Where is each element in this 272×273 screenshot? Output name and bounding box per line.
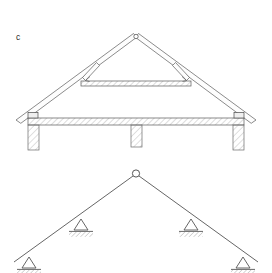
support-inner-left <box>69 219 93 237</box>
right-rafter <box>135 34 256 124</box>
right-wall-plate <box>234 113 244 119</box>
left-frame-member <box>14 176 133 262</box>
right-frame-member <box>139 176 258 262</box>
apex-hinge-icon <box>132 170 139 177</box>
collar-beam <box>81 81 191 86</box>
support-outer-right <box>231 257 255 273</box>
structural-figure: c <box>0 0 272 273</box>
support-inner-right <box>179 219 203 237</box>
centre-wall-column <box>131 125 142 147</box>
structural-idealization <box>14 170 258 273</box>
panel-label: c <box>16 32 21 42</box>
left-wall-column <box>28 125 39 150</box>
ceiling-tie-beam <box>28 118 244 125</box>
figure-container: c <box>0 0 272 273</box>
support-outer-left <box>17 257 41 273</box>
left-rafter <box>16 34 137 124</box>
ridge-joint-icon <box>134 34 138 38</box>
left-wall-plate <box>28 113 38 119</box>
right-wall-column <box>233 125 244 150</box>
roof-truss-section <box>16 34 256 151</box>
